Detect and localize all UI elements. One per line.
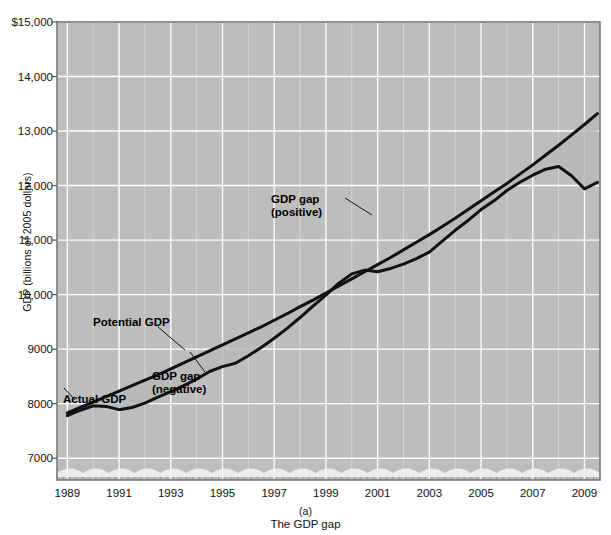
- plot-background: [57, 22, 600, 480]
- figure-caption-label: (a): [0, 505, 611, 517]
- annotation-gap-negative: GDP gap (negative): [152, 370, 206, 396]
- gdp-gap-figure: GDP (billions of 2005 dollars) $15,00014…: [0, 0, 611, 535]
- annotation-gap-positive-line1: GDP gap: [271, 193, 322, 206]
- figure-caption-text: The GDP gap: [0, 518, 611, 530]
- annotation-gap-positive: GDP gap (positive): [271, 193, 322, 219]
- chart-plot-area: [0, 0, 611, 535]
- annotation-gap-negative-line2: (negative): [152, 383, 206, 396]
- annotation-potential-gdp: Potential GDP: [93, 316, 170, 329]
- annotation-gap-positive-line2: (positive): [271, 206, 322, 219]
- annotation-actual-gdp: Actual GDP: [63, 393, 126, 406]
- annotation-gap-negative-line1: GDP gap: [152, 370, 206, 383]
